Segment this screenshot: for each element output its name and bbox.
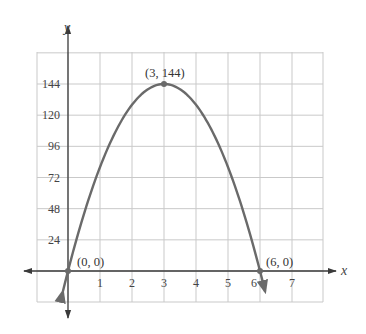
y-tick-label: 24: [48, 233, 60, 247]
y-tick-label: 120: [42, 108, 60, 122]
y-tick-label: 144: [42, 77, 60, 91]
x-axis-label: x: [340, 263, 348, 278]
x-tick-label: 6: [251, 276, 257, 290]
x-tick-label: 1: [97, 276, 103, 290]
label-origin: (0, 0): [77, 255, 104, 269]
x-tick-label: 5: [225, 276, 231, 290]
label-vertex: (3, 144): [145, 66, 185, 80]
point-root: [257, 268, 263, 274]
point-vertex: [161, 81, 167, 87]
x-tick-label: 3: [161, 276, 167, 290]
label-root: (6, 0): [266, 255, 293, 269]
y-tick-label: 48: [48, 202, 60, 216]
parabola-chart: x y 1234567 24487296120144 (0, 0) (3, 14…: [0, 0, 366, 334]
y-axis-label: y: [62, 20, 71, 35]
y-tick-label: 96: [48, 139, 60, 153]
y-tick-labels: 24487296120144: [42, 77, 60, 247]
x-tick-label: 7: [289, 276, 295, 290]
x-tick-label: 2: [129, 276, 135, 290]
point-origin: [65, 268, 71, 274]
y-tick-label: 72: [48, 171, 60, 185]
x-tick-label: 4: [193, 276, 199, 290]
